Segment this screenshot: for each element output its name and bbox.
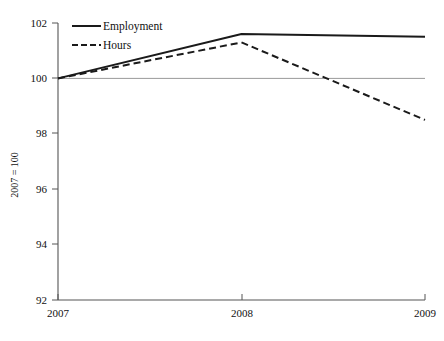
- y-tick-label-100: 100: [31, 72, 48, 84]
- y-axis-title: 2007 = 100: [9, 152, 20, 198]
- chart-container: 102 100 98 96 94 92 2007 2008 2009 2007 …: [0, 0, 444, 341]
- y-tick-label-92: 92: [36, 294, 47, 306]
- legend-label-hours: Hours: [103, 39, 132, 51]
- chart-background: [0, 0, 444, 341]
- x-tick-label-2009: 2009: [414, 307, 437, 319]
- y-tick-label-94: 94: [36, 238, 48, 250]
- legend-label-employment: Employment: [103, 20, 163, 33]
- y-tick-label-102: 102: [31, 17, 48, 29]
- x-tick-label-2007: 2007: [47, 307, 70, 319]
- x-tick-label-2008: 2008: [231, 307, 254, 319]
- line-chart: 102 100 98 96 94 92 2007 2008 2009 2007 …: [0, 0, 444, 341]
- y-tick-label-96: 96: [36, 183, 48, 195]
- y-tick-label-98: 98: [36, 127, 48, 139]
